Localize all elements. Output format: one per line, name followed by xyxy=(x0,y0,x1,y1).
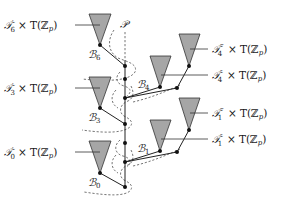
node-t1-double-root xyxy=(158,149,162,153)
branch-label-b4: ℬ4 xyxy=(137,78,150,92)
node-t4-double-root xyxy=(158,85,162,89)
edge-node-b1-to-t1-triple xyxy=(177,130,189,152)
branch-label-b3: ℬ3 xyxy=(88,111,100,125)
node-spine-4 xyxy=(123,122,127,126)
node-spine-5 xyxy=(123,141,127,145)
label-t0-prime: 𝒯′0×T(ℤp) xyxy=(4,146,57,161)
edge-t6-to-spine xyxy=(100,45,125,66)
tree-triangle-t1-triple xyxy=(179,98,200,130)
node-spine-1 xyxy=(123,64,127,68)
left-product-labels: 𝒯′6×T(ℤp) 𝒯′3×T(ℤp) 𝒯′0×T(ℤp) xyxy=(4,19,57,161)
edge-node-b4-to-t4-triple xyxy=(177,66,189,88)
tree-triangle-t1-double xyxy=(150,120,171,151)
node-spine-6 xyxy=(123,160,127,164)
label-t1-double-prime: 𝒯″1×T(ℤp) xyxy=(212,133,266,148)
tree-triangle-t4-double xyxy=(150,56,171,87)
tree-decomposition-diagram: 𝒫 ℬ6 ℬ3 ℬ0 ℬ4 ℬ1 𝒯′6×T(ℤp) 𝒯′3×T(ℤp) 𝒯′0… xyxy=(0,0,289,218)
spine-label: 𝒫 xyxy=(120,18,131,30)
branch-label-b1: ℬ1 xyxy=(137,142,149,156)
branch-labels: ℬ6 ℬ3 ℬ0 ℬ4 ℬ1 xyxy=(88,48,150,190)
node-spine-3 xyxy=(123,96,127,100)
edge-t3-to-spine xyxy=(100,108,125,124)
right-trees xyxy=(150,34,200,151)
node-t3-root xyxy=(98,106,102,110)
right-product-labels: 𝒯‴4×T(ℤp) 𝒯″4×T(ℤp) 𝒯‴1×T(ℤp) 𝒯″1×T(ℤp) xyxy=(212,43,267,148)
node-b1-branch xyxy=(175,150,179,154)
node-t6-root xyxy=(98,43,102,47)
node-spine-7 xyxy=(123,185,127,189)
branch-label-b0: ℬ0 xyxy=(88,176,100,190)
node-t1-triple-root xyxy=(187,128,191,132)
node-b4-branch xyxy=(175,86,179,90)
tree-triangle-t4-triple xyxy=(179,34,200,66)
dashed-boundary-b3-top xyxy=(117,72,130,96)
label-t4-triple-prime: 𝒯‴4×T(ℤp) xyxy=(212,43,267,58)
edge-t0-to-spine xyxy=(100,173,125,187)
dashed-boundary-b3-left xyxy=(112,90,118,108)
tree-triangle-t3 xyxy=(89,77,111,108)
label-t4-double-prime: 𝒯″4×T(ℤp) xyxy=(212,69,266,84)
node-spine-2 xyxy=(123,77,127,81)
branch-label-b6: ℬ6 xyxy=(88,48,101,62)
node-t4-triple-root xyxy=(187,64,191,68)
dashed-boundary-b1-upper xyxy=(116,140,130,167)
label-t6-prime: 𝒯′6×T(ℤp) xyxy=(4,19,57,34)
label-t1-triple-prime: 𝒯‴1×T(ℤp) xyxy=(212,107,267,122)
tree-edges xyxy=(100,45,189,187)
node-t0-root xyxy=(98,171,102,175)
dashed-boundary-b0-left xyxy=(112,155,118,173)
tree-triangle-t0 xyxy=(89,141,111,173)
label-t3-prime: 𝒯′3×T(ℤp) xyxy=(4,82,57,97)
left-trees xyxy=(89,14,111,173)
tree-triangle-t6 xyxy=(89,14,111,45)
